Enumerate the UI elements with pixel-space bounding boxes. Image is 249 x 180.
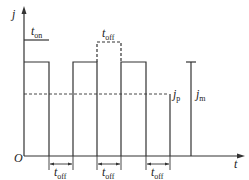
pulse-1 bbox=[24, 62, 49, 156]
t-off-bottom-label-3: toff bbox=[151, 166, 164, 180]
t-off-top-label: toff bbox=[102, 27, 115, 42]
origin-label: O bbox=[14, 152, 23, 164]
x-axis-label: t bbox=[234, 158, 237, 170]
t-off-bottom-label-2: toff bbox=[102, 166, 115, 180]
t-off-dashed-box bbox=[97, 42, 121, 62]
y-axis-label: j bbox=[12, 8, 15, 20]
x-axis-arrow-icon bbox=[237, 154, 245, 159]
pulse-3 bbox=[121, 62, 146, 156]
t-on-label: ton bbox=[31, 25, 42, 40]
pulse-2 bbox=[73, 62, 97, 156]
jp-label: jp bbox=[173, 88, 180, 103]
jm-label: jm bbox=[196, 88, 206, 103]
t-off-bottom-label-1: toff bbox=[54, 166, 67, 180]
y-axis-arrow-icon bbox=[22, 6, 27, 14]
